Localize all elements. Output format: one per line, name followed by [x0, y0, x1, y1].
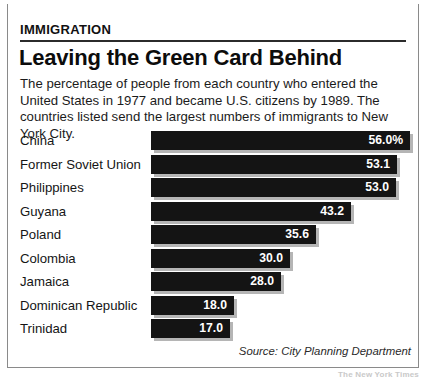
bar-value-label: 56.0%	[151, 133, 403, 147]
chart-row: Former Soviet Union53.1	[0, 155, 431, 179]
kicker-divider	[20, 40, 406, 42]
bar-category-label: Poland	[20, 227, 61, 242]
kicker-label: IMMIGRATION	[20, 22, 111, 37]
bar-value-label: 35.6	[151, 227, 309, 241]
chart-row: Dominican Republic18.0	[0, 296, 431, 320]
bar-value-label: 53.0	[151, 180, 389, 194]
newspaper-chart-graphic: IMMIGRATION Leaving the Green Card Behin…	[0, 0, 431, 380]
bar-value-label: 43.2	[151, 204, 344, 218]
source-note: Source: City Planning Department	[239, 345, 411, 357]
bar-value-label: 28.0	[151, 274, 274, 288]
page-title: Leaving the Green Card Behind	[19, 45, 342, 71]
bar-category-label: China	[20, 133, 54, 148]
bar-value-label: 17.0	[151, 321, 223, 335]
bar-value-label: 18.0	[151, 298, 227, 312]
chart-row: Colombia30.0	[0, 249, 431, 273]
bar-category-label: Guyana	[20, 204, 66, 219]
bar-chart: China56.0%Former Soviet Union53.1Philipp…	[0, 131, 431, 346]
chart-row: China56.0%	[0, 131, 431, 155]
bar-category-label: Dominican Republic	[20, 298, 137, 313]
chart-row: Trinidad17.0	[0, 319, 431, 343]
bar-value-label: 30.0	[151, 251, 283, 265]
bar-category-label: Former Soviet Union	[20, 157, 141, 172]
publisher-credit: The New York Times	[338, 370, 419, 379]
bar-category-label: Jamaica	[20, 274, 69, 289]
chart-row: Guyana43.2	[0, 202, 431, 226]
chart-row: Philippines53.0	[0, 178, 431, 202]
bar-category-label: Trinidad	[20, 321, 67, 336]
chart-row: Poland35.6	[0, 225, 431, 249]
bar-category-label: Philippines	[20, 180, 84, 195]
chart-row: Jamaica28.0	[0, 272, 431, 296]
bar-category-label: Colombia	[20, 251, 76, 266]
bar-value-label: 53.1	[151, 157, 390, 171]
